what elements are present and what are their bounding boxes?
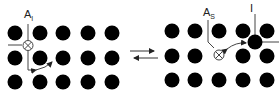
label-i: I — [250, 2, 253, 14]
label-ai: AI — [24, 8, 33, 22]
equilibrium-arrows — [130, 51, 158, 58]
label-as: AS — [203, 6, 215, 20]
left-lattice — [8, 26, 120, 90]
lattice-diagram: AI I AS — [0, 0, 279, 99]
